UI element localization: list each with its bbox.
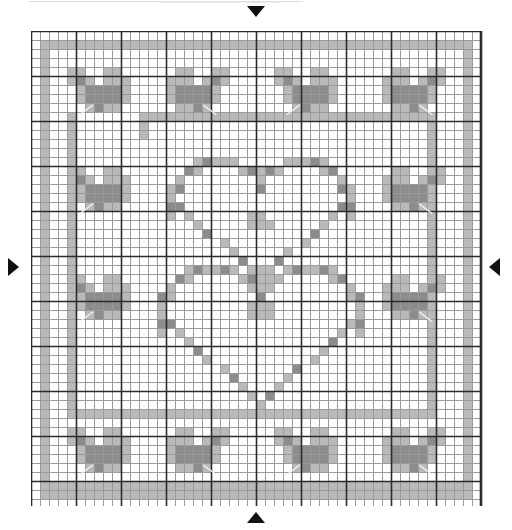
center-marker-top-icon xyxy=(247,6,265,17)
pattern-chart xyxy=(0,0,512,530)
pattern-grid-canvas xyxy=(31,31,483,506)
center-marker-right-icon xyxy=(489,258,500,276)
scan-artifact-line-secondary xyxy=(160,2,280,3)
chart-grid xyxy=(31,31,483,506)
center-marker-left-icon xyxy=(8,258,19,276)
center-marker-bottom-icon xyxy=(247,512,265,523)
